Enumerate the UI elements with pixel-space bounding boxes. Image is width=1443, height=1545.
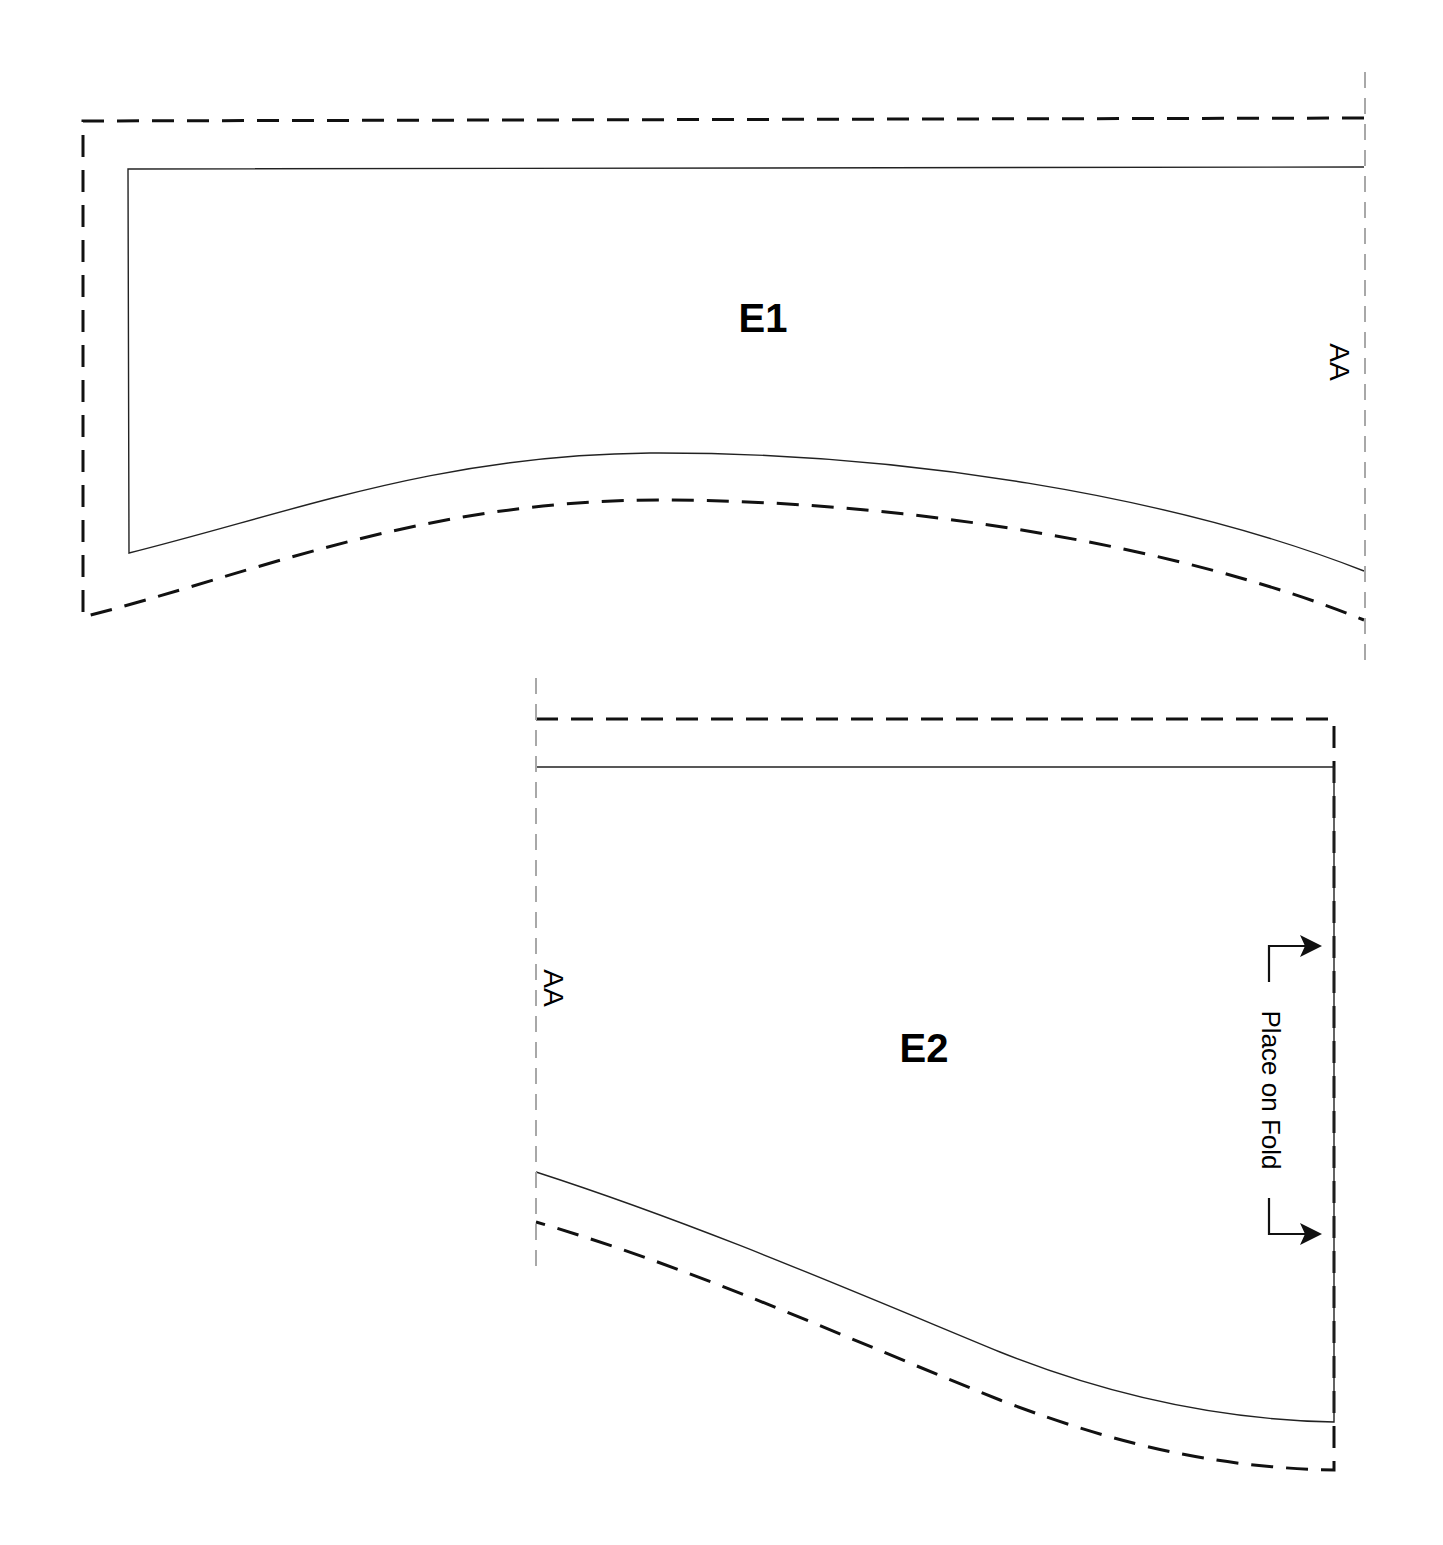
e2-piece-label: E2 [900,1026,949,1070]
fold-arrow-bottom [1269,1198,1306,1234]
fold-arrow-top [1269,946,1306,982]
pattern-piece-e2: E2 AA Place on Fold [536,678,1334,1470]
pattern-canvas: E1 AA E2 AA Place on Fold [0,0,1443,1545]
e2-match-mark: AA [538,969,569,1007]
e1-piece-label: E1 [739,296,788,340]
e2-cut-line [536,719,1334,1470]
place-on-fold-indicator: Place on Fold [1256,935,1322,1245]
e2-stitch-line [536,767,1334,1422]
pattern-piece-e1: E1 AA [83,72,1365,668]
e1-match-mark: AA [1324,343,1355,381]
e1-cut-line [83,118,1364,620]
fold-instruction-label: Place on Fold [1256,1011,1286,1170]
e1-stitch-line [128,167,1364,571]
